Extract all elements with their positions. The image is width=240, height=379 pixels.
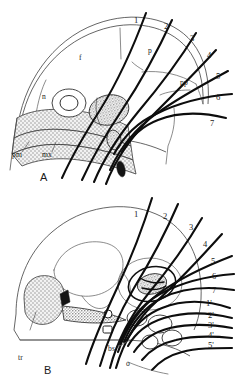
line-label-3-b: 3 xyxy=(189,222,193,232)
bone-label-mx: mx xyxy=(42,150,52,159)
primed-labels-b: 1' 2' 3' 4' 5' xyxy=(206,298,214,350)
panel-label-b: B xyxy=(44,364,51,376)
panel-b-drawing: 1 2 3 4 5 6 7 1' 2' 3' 4' 5' tr bs o xyxy=(0,190,240,379)
line-label-1-prime: 1' xyxy=(206,298,212,308)
figure-root: 1 2 3 4 5 6 7 f n p pp pm mx A xyxy=(0,0,240,379)
line-label-2-prime: 2' xyxy=(208,310,214,320)
line-label-4-prime: 4' xyxy=(208,330,214,340)
line-label-4-b: 4 xyxy=(203,239,208,249)
line-label-5-prime: 5' xyxy=(208,340,214,350)
line-label-3-a: 3 xyxy=(190,33,194,43)
line-label-4-a: 4 xyxy=(207,50,212,60)
bone-label-f: f xyxy=(79,53,82,62)
line-label-6-a: 6 xyxy=(216,92,220,102)
panel-b: 1 2 3 4 5 6 7 1' 2' 3' 4' 5' tr bs o xyxy=(0,190,240,379)
line-label-3-prime: 3' xyxy=(208,320,214,330)
bone-label-o: o xyxy=(126,359,130,368)
bone-label-pm: pm xyxy=(12,150,22,159)
panel-a: 1 2 3 4 5 6 7 f n p pp pm mx A xyxy=(0,0,240,190)
line-label-2-a: 2 xyxy=(164,21,168,31)
line-label-5-a: 5 xyxy=(216,71,220,81)
bone-labels-b: tr bs o xyxy=(18,340,130,368)
panel-a-drawing: 1 2 3 4 5 6 7 f n p pp pm mx A xyxy=(0,0,240,190)
line-label-6-b: 6 xyxy=(212,271,216,281)
line-label-2-b: 2 xyxy=(163,211,167,221)
line-label-1-a: 1 xyxy=(134,15,138,25)
line-label-5-b: 5 xyxy=(211,256,215,266)
bone-label-n: n xyxy=(42,92,46,101)
panel-label-a: A xyxy=(40,171,48,183)
bone-label-p: p xyxy=(148,46,152,55)
line-label-7-b: 7 xyxy=(212,285,216,295)
bone-label-pp: pp xyxy=(180,78,188,87)
orbit-a xyxy=(52,89,86,117)
line-label-7-a: 7 xyxy=(210,118,214,128)
line-label-1-b: 1 xyxy=(134,209,138,219)
bone-label-bs: bs xyxy=(108,344,115,353)
bone-label-tr: tr xyxy=(18,353,23,362)
